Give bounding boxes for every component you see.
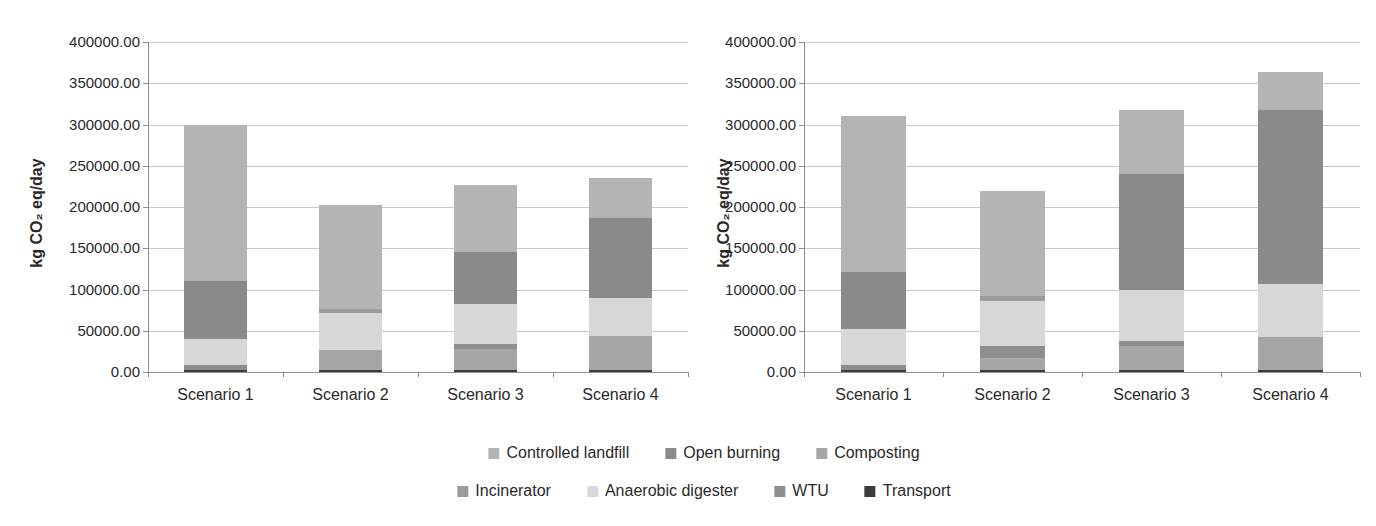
bar-segment-composting bbox=[1258, 337, 1323, 370]
y-tick-label: 400000.00 bbox=[44, 33, 140, 51]
bar-segment-transport bbox=[454, 370, 517, 372]
legend-row-1: Controlled landfillOpen burningCompostin… bbox=[488, 444, 919, 462]
legend-swatch-composting bbox=[816, 448, 827, 459]
bar-segment-composting bbox=[1119, 346, 1184, 370]
x-label-scenario-2: Scenario 2 bbox=[948, 386, 1078, 404]
bar-scenario-3 bbox=[1119, 42, 1184, 372]
y-tick-label: 250000.00 bbox=[700, 157, 796, 175]
bar-segment-composting bbox=[589, 336, 652, 371]
bar-segment-controlled-landfill bbox=[319, 205, 382, 309]
x-tick-mark bbox=[688, 372, 689, 377]
y-tick-label: 100000.00 bbox=[700, 281, 796, 299]
legend-swatch-open-burning bbox=[665, 448, 676, 459]
bar-segment-transport bbox=[319, 370, 382, 372]
bar-segment-composting bbox=[980, 358, 1045, 370]
y-tick-label: 300000.00 bbox=[44, 116, 140, 134]
legend: Controlled landfillOpen burningCompostin… bbox=[457, 444, 950, 500]
bar-scenario-4 bbox=[589, 42, 652, 372]
bar-segment-wtu bbox=[184, 365, 247, 370]
x-tick-mark bbox=[1360, 372, 1361, 377]
bar-segment-open-burning bbox=[1119, 174, 1184, 290]
bar-segment-incinerator bbox=[980, 296, 1045, 301]
x-tick-mark bbox=[943, 372, 944, 377]
bar-segment-transport bbox=[184, 370, 247, 372]
x-label-scenario-1: Scenario 1 bbox=[151, 386, 281, 404]
y-tick-label: 350000.00 bbox=[700, 74, 796, 92]
bar-scenario-2 bbox=[980, 42, 1045, 372]
legend-label: Controlled landfill bbox=[506, 444, 629, 462]
bar-segment-controlled-landfill bbox=[980, 191, 1045, 296]
legend-label: Transport bbox=[883, 482, 951, 500]
y-axis-line bbox=[804, 42, 805, 372]
bar-segment-anaerobic-digester bbox=[980, 301, 1045, 346]
bar-segment-incinerator bbox=[319, 309, 382, 312]
x-tick-mark bbox=[1082, 372, 1083, 377]
x-tick-mark bbox=[418, 372, 419, 377]
bar-segment-anaerobic-digester bbox=[1119, 290, 1184, 342]
legend-label: Open burning bbox=[683, 444, 780, 462]
bar-segment-open-burning bbox=[589, 218, 652, 298]
bar-segment-transport bbox=[1119, 370, 1184, 372]
bar-segment-anaerobic-digester bbox=[1258, 284, 1323, 337]
bar-segment-anaerobic-digester bbox=[454, 304, 517, 344]
right-chart: kg CO₂ eq/day 400000.00350000.00300000.0… bbox=[692, 8, 1372, 438]
y-tick-label: 150000.00 bbox=[700, 239, 796, 257]
bar-segment-transport bbox=[980, 370, 1045, 372]
bar-scenario-4 bbox=[1258, 42, 1323, 372]
bar-segment-controlled-landfill bbox=[184, 125, 247, 282]
x-label-scenario-1: Scenario 1 bbox=[809, 386, 939, 404]
left-chart: kg CO₂ eq/day 400000.00350000.00300000.0… bbox=[10, 8, 686, 438]
bar-segment-wtu bbox=[841, 365, 906, 371]
legend-row-2: IncineratorAnaerobic digesterWTUTranspor… bbox=[457, 482, 950, 500]
bar-scenario-1 bbox=[841, 42, 906, 372]
legend-item-open-burning: Open burning bbox=[665, 444, 780, 462]
bar-segment-controlled-landfill bbox=[1258, 72, 1323, 111]
legend-swatch-incinerator bbox=[457, 486, 468, 497]
x-tick-mark bbox=[804, 372, 805, 377]
legend-item-controlled-landfill: Controlled landfill bbox=[488, 444, 629, 462]
y-tick-label: 50000.00 bbox=[700, 322, 796, 340]
y-tick-label: 0.00 bbox=[700, 363, 796, 381]
y-tick-label: 400000.00 bbox=[700, 33, 796, 51]
y-axis-line bbox=[148, 42, 149, 372]
bar-segment-anaerobic-digester bbox=[184, 339, 247, 365]
bar-segment-composting bbox=[454, 349, 517, 370]
legend-item-wtu: WTU bbox=[774, 482, 828, 500]
bar-segment-open-burning bbox=[841, 272, 906, 329]
bar-segment-open-burning bbox=[1258, 110, 1323, 283]
bar-segment-controlled-landfill bbox=[589, 178, 652, 218]
legend-label: Anaerobic digester bbox=[605, 482, 738, 500]
legend-item-anaerobic-digester: Anaerobic digester bbox=[587, 482, 738, 500]
y-tick-label: 200000.00 bbox=[44, 198, 140, 216]
bar-segment-open-burning bbox=[184, 281, 247, 339]
bar-segment-composting bbox=[319, 350, 382, 371]
bar-segment-controlled-landfill bbox=[454, 185, 517, 252]
y-tick-label: 0.00 bbox=[44, 363, 140, 381]
x-tick-mark bbox=[283, 372, 284, 377]
x-label-scenario-4: Scenario 4 bbox=[1226, 386, 1356, 404]
legend-swatch-transport bbox=[865, 486, 876, 497]
legend-label: WTU bbox=[792, 482, 828, 500]
bar-segment-open-burning bbox=[454, 252, 517, 305]
legend-label: Incinerator bbox=[475, 482, 551, 500]
bar-segment-wtu bbox=[980, 346, 1045, 358]
bar-segment-controlled-landfill bbox=[1119, 110, 1184, 174]
x-label-scenario-3: Scenario 3 bbox=[1087, 386, 1217, 404]
legend-item-transport: Transport bbox=[865, 482, 951, 500]
legend-item-incinerator: Incinerator bbox=[457, 482, 551, 500]
y-tick-label: 300000.00 bbox=[700, 116, 796, 134]
y-tick-label: 50000.00 bbox=[44, 322, 140, 340]
y-tick-label: 200000.00 bbox=[700, 198, 796, 216]
bar-scenario-1 bbox=[184, 42, 247, 372]
bar-scenario-2 bbox=[319, 42, 382, 372]
x-tick-mark bbox=[553, 372, 554, 377]
y-tick-label: 250000.00 bbox=[44, 157, 140, 175]
legend-label: Composting bbox=[834, 444, 919, 462]
x-label-scenario-2: Scenario 2 bbox=[286, 386, 416, 404]
y-tick-label: 350000.00 bbox=[44, 74, 140, 92]
legend-swatch-anaerobic-digester bbox=[587, 486, 598, 497]
x-tick-mark bbox=[148, 372, 149, 377]
bar-segment-wtu bbox=[1119, 341, 1184, 345]
x-tick-mark bbox=[1221, 372, 1222, 377]
bar-segment-anaerobic-digester bbox=[319, 313, 382, 350]
